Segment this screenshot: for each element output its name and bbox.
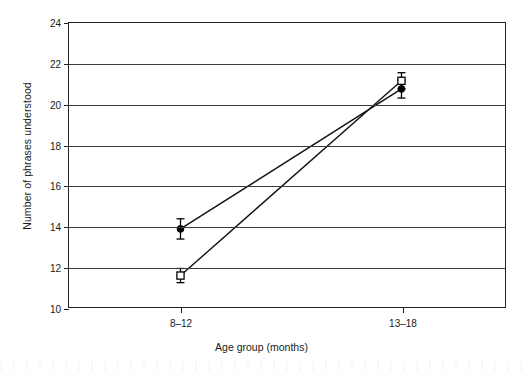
y-tick-label-16: 16 [50,181,61,192]
y-tick-label-10: 10 [50,304,61,315]
scan-artifact [0,361,523,371]
data-overlay [69,23,505,307]
y-tick-label-12: 12 [50,263,61,274]
x-tick-mark-0 [181,307,182,313]
gridline-y-16 [69,186,505,187]
y-axis-title: Number of phrases understood [21,41,33,271]
y-tick-mark-18 [64,146,69,147]
y-tick-mark-14 [64,227,69,228]
error-bar-1 [397,80,405,98]
y-tick-mark-12 [64,268,69,269]
x-axis-title: Age group (months) [0,341,523,353]
chart-figure: Number of phrases understood 10121416182… [0,0,523,375]
y-tick-label-20: 20 [50,99,61,110]
gridline-y-18 [69,146,505,147]
y-tick-label-14: 14 [50,222,61,233]
gridline-y-14 [69,227,505,228]
x-tick-mark-1 [403,307,404,313]
gridline-y-12 [69,268,505,269]
plot-area: 10121416182022248–1213–18 [68,22,506,308]
error-bar-0 [177,219,185,239]
marker-filled-diamond-1 [398,86,405,93]
x-tick-label-1: 13–18 [389,318,417,329]
error-bar-1 [397,73,405,89]
y-tick-label-18: 18 [50,140,61,151]
series-filled-diamond-series [177,80,406,239]
x-tick-label-0: 8–12 [170,318,192,329]
series-line [180,89,401,229]
marker-open-square-0 [177,272,184,279]
y-tick-label-24: 24 [50,18,61,29]
y-tick-mark-16 [64,186,69,187]
error-bar-0 [177,268,185,282]
y-tick-mark-20 [64,105,69,106]
y-tick-mark-10 [64,309,69,310]
y-tick-mark-22 [64,64,69,65]
gridline-y-20 [69,105,505,106]
gridline-y-22 [69,64,505,65]
marker-open-square-1 [398,77,405,84]
y-tick-mark-24 [64,23,69,24]
y-tick-label-22: 22 [50,58,61,69]
series-line [180,81,401,276]
